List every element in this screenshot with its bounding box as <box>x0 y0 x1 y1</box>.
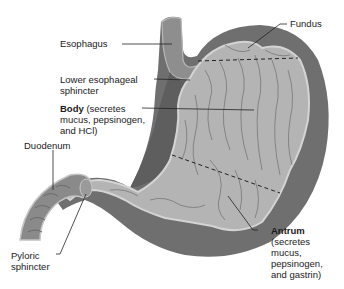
label-esophagus: Esophagus <box>60 38 108 49</box>
label-antrum: Antrum (secretes mucus, pepsinogen, and … <box>271 225 323 280</box>
label-body: Body (secretes mucus, pepsinogen, and HC… <box>60 103 145 136</box>
label-duodenum: Duodenum <box>24 140 70 151</box>
duodenum-arch <box>20 174 90 240</box>
label-pyloric-sphincter: Pyloric sphincter <box>11 250 50 272</box>
label-lower-esophageal-sphincter: Lower esophageal sphincter <box>60 74 138 96</box>
label-fundus: Fundus <box>290 18 322 29</box>
stomach-diagram: Fundus Esophagus Lower esophageal sphinc… <box>0 0 344 289</box>
